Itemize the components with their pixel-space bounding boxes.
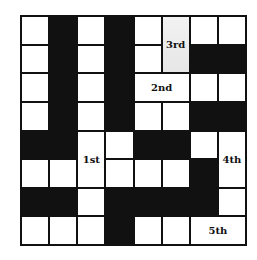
black-cell-r3-c1 — [50, 103, 76, 130]
black-cell-r4-c4-c5 — [135, 132, 189, 159]
black-cell-r5-c6 — [191, 160, 217, 215]
grid-cell-r5-c0[interactable] — [22, 160, 48, 187]
grid-cell-r2-c2[interactable] — [78, 74, 104, 101]
grid-cell-r7-c2[interactable] — [78, 217, 104, 244]
grid-cell-r6-c2[interactable] — [78, 189, 104, 216]
grid-cell-r5-c1[interactable] — [50, 160, 76, 187]
grid-cell-r0-c4[interactable] — [135, 17, 161, 44]
grid-cell-r4-c6[interactable] — [191, 132, 217, 159]
grid-cell-r5-c3[interactable] — [106, 160, 132, 187]
grid-cell-r0-c0[interactable] — [22, 17, 48, 44]
grid-cell-r3-c2[interactable] — [78, 103, 104, 130]
black-cell-r3-c3 — [106, 103, 132, 130]
grid-cell-r5-c5[interactable] — [163, 160, 189, 187]
grid-cell-r1-c4[interactable] — [135, 46, 161, 73]
grid-cell-r3-c0[interactable] — [22, 103, 48, 130]
grid-cell-r5-c4[interactable] — [135, 160, 161, 187]
first-label: 1st — [83, 154, 100, 165]
third-slot[interactable]: 3rd — [163, 17, 189, 72]
grid-cell-r2-c7[interactable] — [219, 74, 245, 101]
fifth-slot[interactable]: 5th — [191, 217, 245, 244]
second-label: 2nd — [151, 82, 172, 93]
black-cell-r3-c6-c7 — [191, 103, 245, 130]
black-cell-r6-c0-c1 — [22, 189, 76, 216]
black-cell-r0-c3 — [106, 17, 132, 44]
grid-cell-r0-c6[interactable] — [191, 17, 217, 44]
black-cell-r6-c3-c5 — [106, 189, 188, 216]
grid-cell-r6-c7[interactable] — [219, 189, 245, 216]
black-cell-r7-c3 — [106, 217, 132, 244]
grid-cell-r0-c2[interactable] — [78, 17, 104, 44]
fourth-slot[interactable]: 4th — [219, 132, 245, 187]
black-cell-r1-c1 — [50, 46, 76, 73]
grid-cell-r0-c7[interactable] — [219, 17, 245, 44]
grid-cell-r4-c3[interactable] — [106, 132, 132, 159]
grid-cell-r1-c2[interactable] — [78, 46, 104, 73]
grid-cell-r3-c4[interactable] — [135, 103, 161, 130]
second-slot[interactable]: 2nd — [135, 74, 189, 101]
black-cell-r4-c0-c1 — [22, 132, 76, 159]
crossword-grid: 3rd 2nd 1st 4th 5th — [20, 15, 247, 246]
black-cell-r0-c1 — [50, 17, 76, 44]
grid-cell-r7-c0[interactable] — [22, 217, 48, 244]
grid-cell-r7-c5[interactable] — [163, 217, 189, 244]
fourth-label: 4th — [223, 154, 242, 165]
black-cell-r1-c3 — [106, 46, 132, 73]
grid-cell-r7-c4[interactable] — [135, 217, 161, 244]
third-label: 3rd — [166, 39, 185, 50]
black-cell-r2-c3 — [106, 74, 132, 101]
grid-cell-r2-c6[interactable] — [191, 74, 217, 101]
grid-cell-r1-c0[interactable] — [22, 46, 48, 73]
black-cell-r2-c1 — [50, 74, 76, 101]
black-cell-r1-c6-c7 — [191, 46, 245, 73]
grid-cell-r3-c5[interactable] — [163, 103, 189, 130]
first-slot[interactable]: 1st — [78, 132, 104, 187]
grid-cell-r7-c1[interactable] — [50, 217, 76, 244]
fifth-label: 5th — [208, 225, 227, 236]
grid-cell-r2-c0[interactable] — [22, 74, 48, 101]
